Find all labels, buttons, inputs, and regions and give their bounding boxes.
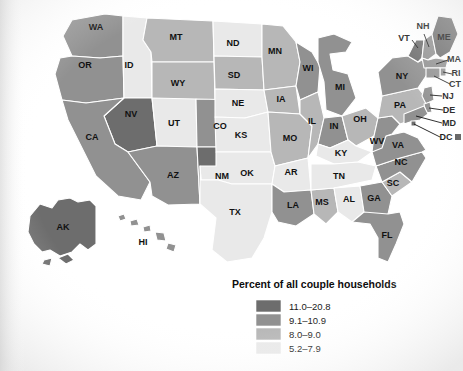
label-WI: WI: [303, 63, 314, 73]
label-NE: NE: [232, 98, 245, 108]
legend-swatch-1: [256, 314, 281, 326]
label-ND: ND: [227, 38, 240, 48]
legend-title: Percent of all couple households: [232, 278, 397, 290]
label-AL: AL: [343, 194, 355, 204]
label-DE: DE: [443, 105, 456, 115]
legend-label-2: 8.0–9.0: [289, 329, 321, 340]
label-AR: AR: [285, 167, 298, 177]
state-MA[interactable]: [422, 58, 448, 68]
label-ID: ID: [125, 60, 135, 70]
label-SD: SD: [228, 70, 241, 80]
label-MN: MN: [268, 46, 282, 56]
label-DC: DC: [440, 132, 453, 142]
label-NY: NY: [396, 71, 409, 81]
legend-swatch-0: [256, 300, 281, 312]
dc-marker-swatch: [455, 134, 461, 140]
legend-label-0: 11.0–20.8: [289, 301, 331, 312]
label-VA: VA: [392, 140, 404, 150]
label-NJ: NJ: [442, 91, 454, 101]
label-NM: NM: [215, 171, 229, 181]
label-GA: GA: [367, 193, 381, 203]
label-OH: OH: [353, 114, 367, 124]
label-CO: CO: [213, 121, 227, 131]
label-KS: KS: [235, 130, 248, 140]
label-VT: VT: [398, 33, 410, 43]
label-HI: HI: [139, 237, 148, 247]
label-OR: OR: [78, 60, 92, 70]
label-WV: WV: [370, 136, 385, 146]
label-NV: NV: [125, 109, 138, 119]
label-SC: SC: [387, 178, 400, 188]
label-WY: WY: [171, 78, 186, 88]
label-MT: MT: [170, 32, 183, 42]
label-AK: AK: [57, 222, 70, 232]
label-WA: WA: [89, 22, 104, 32]
choropleth-map-figure: WA OR ID MT WY NV UT CA AZ CO NM ND SD N…: [0, 0, 463, 371]
legend-swatch-2: [256, 328, 281, 340]
label-MA: MA: [447, 54, 461, 64]
label-ME: ME: [437, 32, 451, 42]
label-AZ: AZ: [167, 170, 179, 180]
label-UT: UT: [168, 118, 180, 128]
legend-swatch-3: [256, 342, 281, 354]
label-CT: CT: [449, 79, 461, 89]
label-IN: IN: [330, 121, 339, 131]
label-LA: LA: [287, 200, 299, 210]
legend-label-1: 9.1–10.9: [289, 315, 326, 326]
label-CA: CA: [86, 132, 99, 142]
label-KY: KY: [335, 148, 348, 158]
label-RI: RI: [452, 68, 461, 78]
label-PA: PA: [394, 100, 406, 110]
label-IL: IL: [308, 116, 317, 126]
label-NH: NH: [417, 21, 430, 31]
label-IA: IA: [277, 94, 287, 104]
us-map-svg: WA OR ID MT WY NV UT CA AZ CO NM ND SD N…: [0, 0, 463, 371]
label-FL: FL: [382, 230, 393, 240]
label-TX: TX: [229, 207, 241, 217]
label-MI: MI: [335, 82, 345, 92]
label-MS: MS: [315, 197, 329, 207]
state-WA[interactable]: [63, 14, 123, 58]
legend-label-3: 5.2–7.9: [289, 343, 321, 354]
label-NC: NC: [395, 157, 408, 167]
label-OK: OK: [240, 168, 254, 178]
label-TN: TN: [333, 171, 345, 181]
state-CT[interactable]: [426, 68, 440, 78]
label-MD: MD: [442, 118, 456, 128]
state-DC[interactable]: [411, 121, 416, 126]
label-MO: MO: [283, 133, 298, 143]
